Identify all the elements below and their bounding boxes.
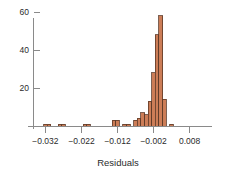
x-tick-label: −0.012 xyxy=(104,136,131,146)
histogram-canvas: 204060 −0.032−0.022−0.012−0.0020.008 Res… xyxy=(0,0,237,175)
x-axis-title: Residuals xyxy=(97,157,139,168)
histogram-bar xyxy=(62,124,66,126)
histogram-bar xyxy=(155,35,159,126)
x-tick-label: −0.022 xyxy=(68,136,95,146)
residuals-histogram: 204060 −0.032−0.022−0.012−0.0020.008 Res… xyxy=(0,0,237,175)
histogram-bar xyxy=(123,124,127,126)
histogram-bar xyxy=(137,118,141,126)
x-axis-ticks: −0.032−0.022−0.012−0.0020.008 xyxy=(32,127,200,146)
y-tick-label: 40 xyxy=(20,45,30,55)
x-tick-label: 0.008 xyxy=(179,136,201,146)
x-tick-label: −0.002 xyxy=(140,136,167,146)
histogram-bar xyxy=(145,115,149,126)
chart-axes xyxy=(28,18,212,129)
histogram-bar xyxy=(148,101,152,126)
histogram-bar xyxy=(170,124,174,126)
histogram-bar xyxy=(141,113,145,126)
histogram-bar xyxy=(127,124,131,126)
histogram-bar xyxy=(159,16,163,126)
histogram-bar xyxy=(152,73,156,126)
histogram-bar xyxy=(47,124,51,126)
y-tick-label: 60 xyxy=(20,7,30,17)
histogram-bar xyxy=(83,124,87,126)
histogram-bar xyxy=(44,124,48,126)
x-tick-label: −0.032 xyxy=(32,136,59,146)
histogram-bar xyxy=(116,120,120,126)
histogram-bars xyxy=(44,16,174,126)
histogram-bar xyxy=(134,120,138,126)
histogram-bar xyxy=(163,99,167,126)
y-axis-ticks: 204060 xyxy=(20,7,40,93)
histogram-bar xyxy=(87,124,91,126)
histogram-bar xyxy=(112,120,116,126)
histogram-bar xyxy=(58,124,62,126)
y-tick-label: 20 xyxy=(20,83,30,93)
